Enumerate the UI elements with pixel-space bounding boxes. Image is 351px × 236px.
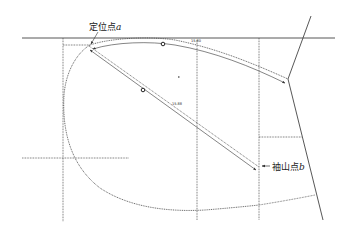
midpoint-marker-top: [161, 42, 165, 46]
point-b-var: b: [299, 162, 305, 172]
bottom-curve-right: [259, 195, 315, 205]
point-a-var: a: [116, 22, 121, 32]
point-b-label: 袖山点b: [272, 160, 305, 173]
armhole-top-curve: [90, 38, 288, 79]
diagonal-dashed: [89, 46, 259, 167]
top-measure-arrow: [93, 43, 285, 83]
center-mark: [178, 76, 180, 78]
diagram-drawing: [0, 0, 351, 236]
armhole-diagram: 定位点a 袖山点b 15.80 15.88: [0, 0, 351, 236]
point-a-text: 定位点: [89, 22, 116, 32]
measurement-top-curve: 15.80: [191, 39, 201, 43]
shoulder-side-seam: [288, 16, 323, 220]
diagonal-measure-arrow: [90, 50, 256, 170]
point-b-text: 袖山点: [272, 162, 299, 172]
point-a-label: 定位点a: [89, 20, 121, 33]
measurement-diagonal: 15.88: [172, 102, 182, 106]
armhole-curve: [64, 45, 259, 210]
midpoint-marker-diagonal: [141, 88, 145, 92]
